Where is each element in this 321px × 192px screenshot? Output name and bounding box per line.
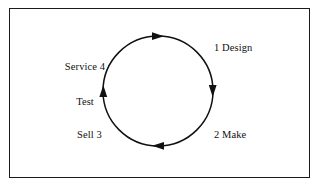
label-service-test: Service 4 Test: [56, 38, 114, 130]
label-design: 1 Design: [214, 42, 252, 54]
figure-root: Service 4 Test 1 Design 2 Make Sell 3: [0, 0, 321, 192]
label-make: 2 Make: [214, 129, 246, 141]
figure-frame: [9, 8, 310, 178]
label-service-line-2: Test: [56, 96, 114, 108]
label-service-line-1: Service 4: [56, 61, 114, 73]
label-sell: Sell 3: [77, 129, 102, 141]
